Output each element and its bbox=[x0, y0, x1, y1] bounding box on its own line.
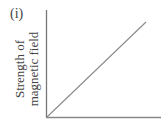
data-line bbox=[47, 22, 146, 117]
chart-plot-area bbox=[0, 0, 161, 123]
